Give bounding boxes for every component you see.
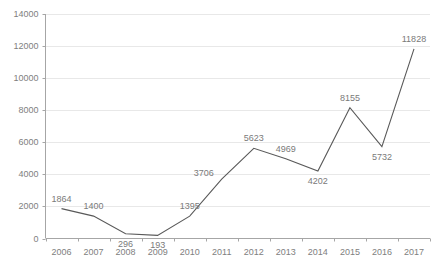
y-axis-tick-label: 4000: [0, 169, 39, 179]
data-point-label: 11828: [399, 34, 429, 44]
data-point-label: 1864: [47, 194, 77, 204]
data-point-label: 1400: [79, 201, 109, 211]
chart-plot-area: [0, 0, 435, 273]
y-axis-tick-label: 0: [0, 234, 39, 244]
y-axis-tick-label: 2000: [0, 201, 39, 211]
data-point-label: 4202: [303, 176, 333, 186]
data-point-label: 1395: [175, 201, 205, 211]
gridlines-group: [46, 15, 431, 207]
line-chart: 02000400060008000100001200014000 2006200…: [0, 0, 435, 273]
x-axis-tick-label: 2016: [365, 247, 399, 257]
data-point-label: 5623: [239, 133, 269, 143]
data-point-label: 5732: [367, 152, 397, 162]
data-point-label: 4969: [271, 144, 301, 154]
x-axis-tick-label: 2010: [173, 247, 207, 257]
x-axis-tick-label: 2011: [205, 247, 239, 257]
y-axis-tick-label: 12000: [0, 41, 39, 51]
x-axis-tick-label: 2015: [333, 247, 367, 257]
x-axis-tick-label: 2012: [237, 247, 271, 257]
data-point-label: 193: [143, 240, 173, 250]
data-point-label: 296: [111, 239, 141, 249]
x-axis-tick-label: 2006: [45, 247, 79, 257]
y-axis-tick-label: 6000: [0, 137, 39, 147]
y-axis-tick-label: 10000: [0, 73, 39, 83]
y-axis-tick-label: 14000: [0, 9, 39, 19]
x-axis-tick-label: 2014: [301, 247, 335, 257]
x-axis-tick-label: 2013: [269, 247, 303, 257]
data-point-label: 3706: [189, 168, 219, 178]
y-axis-tick-label: 8000: [0, 105, 39, 115]
x-axis-tick-label: 2017: [397, 247, 431, 257]
data-point-label: 8155: [335, 93, 365, 103]
x-axis-tick-label: 2007: [77, 247, 111, 257]
